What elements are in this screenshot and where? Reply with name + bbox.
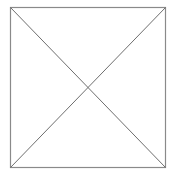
image-placeholder-icon (0, 0, 173, 176)
